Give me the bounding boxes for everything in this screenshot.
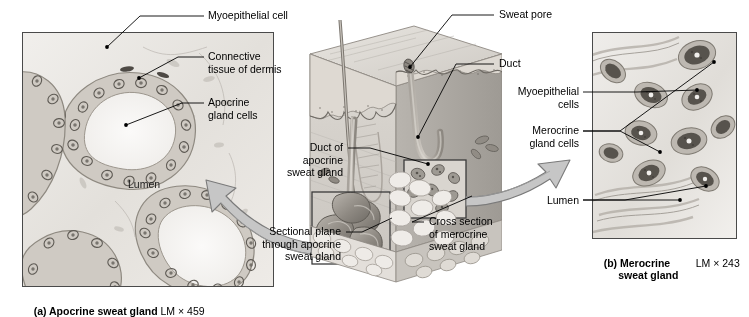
- label-apocrine-gland-cells: Apocrine gland cells: [208, 96, 258, 121]
- label-duct: Duct: [499, 57, 521, 70]
- label-sweat-pore: Sweat pore: [499, 8, 552, 21]
- label-myoepithelial-cells: Myoepithelial cells: [466, 85, 579, 110]
- figure-root: Lumen: [0, 0, 749, 317]
- merocrine-histology-art: [593, 33, 736, 238]
- panel-a-lumen-overlay-label: Lumen: [128, 178, 160, 190]
- label-sectional-plane-through-apocrine-sweat-gland: Sectional plane through apocrine sweat g…: [200, 225, 341, 263]
- label-connective-tissue-of-dermis: Connective tissue of dermis: [208, 50, 282, 75]
- label-merocrine-gland-cells: Merocrine gland cells: [466, 124, 579, 149]
- label-cross-section-of-merocrine-sweat-gland: Cross section of merocrine sweat gland: [429, 215, 493, 253]
- caption-panel-a-mag-value: LM × 459: [160, 305, 204, 317]
- label-lumen-panel-b: Lumen: [509, 194, 579, 207]
- panel-b-micrograph: [592, 32, 737, 239]
- caption-panel-b-bold: (b) Merocrine sweat gland: [604, 257, 679, 282]
- caption-panel-b: (b) Merocrine sweat gland: [592, 244, 678, 294]
- label-myoepithelial-cell: Myoepithelial cell: [208, 9, 288, 22]
- caption-panel-a: (a) Apocrine sweat gland LM × 459: [22, 292, 205, 317]
- caption-panel-a-bold: (a) Apocrine sweat gland: [34, 305, 158, 317]
- caption-panel-b-magnification: LM × 243: [684, 244, 740, 282]
- label-duct-of-apocrine-sweat-gland: Duct of apocrine sweat gland: [228, 141, 343, 179]
- caption-panel-b-mag-value: LM × 243: [696, 257, 740, 269]
